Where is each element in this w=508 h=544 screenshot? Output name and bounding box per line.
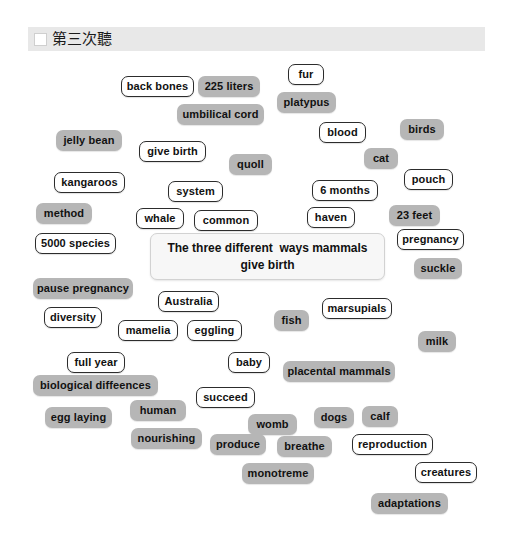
- word-tile[interactable]: creatures: [415, 462, 477, 483]
- word-tile[interactable]: mamelia: [118, 320, 178, 341]
- word-tile[interactable]: milk: [418, 331, 456, 352]
- word-tile[interactable]: kangaroos: [54, 172, 125, 193]
- word-tile[interactable]: human: [130, 400, 186, 421]
- word-tile[interactable]: womb: [248, 414, 297, 435]
- header-checkbox[interactable]: [34, 33, 47, 46]
- word-tile[interactable]: diversity: [44, 307, 102, 328]
- word-tile[interactable]: fur: [288, 64, 324, 85]
- word-tile[interactable]: egg laying: [45, 407, 112, 428]
- word-tile[interactable]: nourishing: [131, 428, 202, 449]
- word-tile[interactable]: succeed: [196, 387, 255, 408]
- word-tile[interactable]: 225 liters: [198, 76, 260, 97]
- word-tile[interactable]: calf: [362, 406, 398, 427]
- word-tile[interactable]: cat: [364, 148, 398, 169]
- word-tile[interactable]: reproduction: [352, 434, 433, 455]
- word-tile[interactable]: whale: [136, 208, 184, 229]
- word-tile[interactable]: system: [168, 181, 223, 202]
- word-tile[interactable]: birds: [400, 119, 444, 140]
- word-tile[interactable]: baby: [228, 352, 270, 373]
- word-tile[interactable]: pregnancy: [397, 229, 464, 250]
- word-tile[interactable]: marsupials: [322, 298, 392, 319]
- word-tile[interactable]: haven: [307, 207, 355, 228]
- word-tile[interactable]: umbilical cord: [177, 104, 264, 125]
- header-bar: 第三次聽: [28, 27, 485, 51]
- word-tile[interactable]: produce: [210, 434, 266, 455]
- word-tile[interactable]: platypus: [277, 92, 336, 113]
- word-tile[interactable]: 5000 species: [35, 233, 116, 254]
- word-tile[interactable]: quoll: [229, 154, 272, 175]
- word-tile[interactable]: blood: [319, 122, 366, 143]
- word-tile[interactable]: common: [194, 210, 258, 231]
- word-tile[interactable]: jelly bean: [56, 130, 122, 151]
- word-tile[interactable]: 23 feet: [389, 205, 440, 226]
- word-tile[interactable]: give birth: [139, 141, 206, 162]
- prompt-box: The three different ways mammals give bi…: [150, 233, 385, 280]
- word-tile[interactable]: monotreme: [242, 463, 314, 484]
- page-title: 第三次聽: [52, 32, 112, 47]
- word-tile[interactable]: suckle: [414, 258, 462, 279]
- word-tile[interactable]: method: [36, 203, 92, 224]
- word-tile[interactable]: adaptations: [371, 493, 448, 514]
- word-tile[interactable]: dogs: [314, 407, 354, 428]
- word-tile[interactable]: placental mammals: [283, 361, 395, 382]
- word-tile[interactable]: back bones: [121, 76, 194, 97]
- word-tile[interactable]: pouch: [404, 169, 453, 190]
- word-tile[interactable]: Australia: [158, 291, 219, 312]
- word-tile[interactable]: full year: [67, 352, 125, 373]
- word-tile[interactable]: 6 months: [312, 180, 378, 201]
- word-bank-page: 第三次聽 back bones225 litersfurplatypusumbi…: [0, 0, 508, 544]
- word-tile[interactable]: eggling: [187, 320, 242, 341]
- word-tile[interactable]: fish: [274, 310, 309, 331]
- word-tile[interactable]: pause pregnancy: [33, 278, 133, 299]
- word-tile[interactable]: breathe: [277, 436, 332, 457]
- word-tile[interactable]: biological diffeences: [33, 375, 158, 396]
